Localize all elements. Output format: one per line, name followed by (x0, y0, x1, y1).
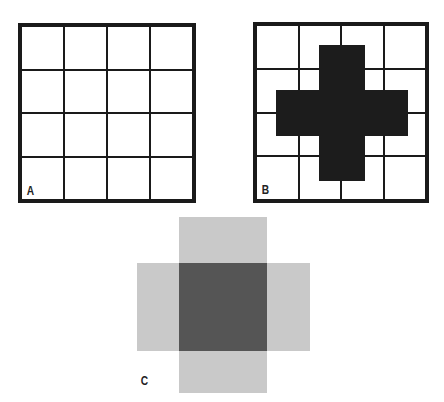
grid-cell (107, 113, 150, 157)
grid-cell (21, 26, 64, 70)
panel-label-a: A (27, 184, 34, 198)
grid-cell (150, 26, 193, 70)
grid-cell (384, 25, 427, 69)
grid-cell (64, 70, 107, 114)
grid-cell (107, 157, 150, 201)
grid-cell (64, 157, 107, 201)
grid-cell (107, 26, 150, 70)
grid-cell (64, 113, 107, 157)
grid-cell (107, 70, 150, 114)
grid-cell (150, 113, 193, 157)
blur-center-square (179, 263, 267, 351)
grid-cell (21, 113, 64, 157)
panel-label-b: B (262, 183, 269, 197)
grid-cell (256, 25, 299, 69)
grid-a (18, 23, 196, 203)
grid-cell (150, 157, 193, 201)
grid-cell (384, 156, 427, 200)
cross-horizontal-arm (276, 90, 408, 136)
grid-cell (150, 70, 193, 114)
grid-cell (64, 26, 107, 70)
panel-label-c: C (141, 374, 148, 388)
grid-cell (21, 70, 64, 114)
